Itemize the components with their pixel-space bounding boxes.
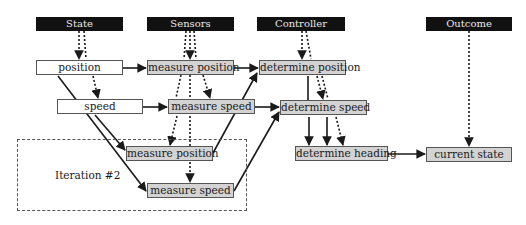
node-speed: speed	[57, 99, 143, 114]
diagram-canvas: State Sensors Controller Outcome Iterati…	[0, 0, 526, 225]
node-position: position	[36, 60, 123, 75]
header-outcome: Outcome	[426, 17, 512, 31]
node-determine-position: determine position	[259, 60, 346, 75]
node-determine-heading: determine heading	[295, 146, 388, 161]
node-measure-speed: measure speed	[168, 99, 255, 114]
node-current-state: current state	[426, 147, 512, 162]
header-sensors: Sensors	[147, 17, 234, 31]
header-state: State	[36, 17, 123, 31]
node-measure-position: measure position	[147, 60, 234, 75]
header-controller: Controller	[257, 17, 345, 31]
iteration-label: Iteration #2	[55, 169, 120, 181]
node-measure-position-iter2: measure position	[126, 146, 213, 161]
node-determine-speed: determine speed	[280, 100, 367, 115]
node-measure-speed-iter2: measure speed	[147, 183, 234, 198]
